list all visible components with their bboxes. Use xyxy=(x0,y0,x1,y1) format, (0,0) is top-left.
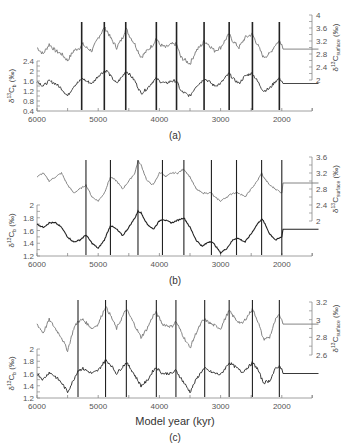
left-y-tick-label: 1.8 xyxy=(23,214,35,223)
x-tick-label: 3000 xyxy=(212,402,230,411)
left-y-tick-label: 1.4 xyxy=(23,239,35,248)
x-tick-label: 5000 xyxy=(89,402,107,411)
x-tick-label: 2000 xyxy=(273,402,291,411)
panel-b: 600050004000300020001.21.41.61.82δ13Cb (… xyxy=(6,153,341,286)
right-y-tick-label: 3.2 xyxy=(316,298,328,307)
x-tick-label: 6000 xyxy=(28,115,46,124)
right-y-tick-label: 3.2 xyxy=(316,37,328,46)
right-y-tick-label: 2.8 xyxy=(316,185,328,194)
panel-label: (c) xyxy=(169,432,181,443)
x-tick-label: 5000 xyxy=(89,260,107,269)
panel-label: (b) xyxy=(169,275,181,286)
x-tick-label: 6000 xyxy=(28,260,46,269)
x-tick-label: 2000 xyxy=(273,115,291,124)
right-y-tick-label: 2.4 xyxy=(316,201,328,210)
left-y-tick-label: 1.8 xyxy=(23,357,35,366)
right-y-tick-label: 3.6 xyxy=(316,153,328,162)
right-y-tick-label: 3.2 xyxy=(316,169,328,178)
left-y-axis-title: δ13Cb (‰) xyxy=(6,213,17,247)
left-y-tick-label: 2 xyxy=(30,201,35,210)
x-tick-label: 5000 xyxy=(89,115,107,124)
left-y-tick-label: 2.4 xyxy=(23,57,35,66)
right-y-axis-title: δ13Csurface (‰) xyxy=(330,23,341,71)
right-y-axis-title: δ13Csurface (‰) xyxy=(330,304,341,352)
right-y-tick-label: 2 xyxy=(316,217,321,226)
left-y-axis-title: δ13Cb (‰) xyxy=(6,69,17,103)
x-tick-label: 4000 xyxy=(151,402,169,411)
left-y-tick-label: 0.4 xyxy=(23,107,35,116)
left-y-tick-label: 1.6 xyxy=(23,77,35,86)
series-line-delta13cb xyxy=(37,211,319,254)
series-line-delta13c-surface xyxy=(37,307,319,352)
series-line-delta13cb xyxy=(37,70,319,97)
left-y-tick-label: 1.6 xyxy=(23,370,35,379)
panel-label: (a) xyxy=(169,130,181,141)
right-y-tick-label: 2.4 xyxy=(316,63,328,72)
series-line-delta13c-surface xyxy=(37,27,319,65)
x-tick-label: 4000 xyxy=(151,260,169,269)
right-y-tick-label: 2.6 xyxy=(316,351,328,360)
right-y-tick-label: 3 xyxy=(316,316,321,325)
x-tick-label: 6000 xyxy=(28,402,46,411)
right-y-tick-label: 2.8 xyxy=(316,333,328,342)
chart-figure: 600050004000300020000.40.81.21.622.4δ13C… xyxy=(0,0,347,446)
right-y-axis-title: δ13Csurface (‰) xyxy=(330,165,341,213)
x-axis-title: Model year (kyr) xyxy=(135,415,214,427)
series-line-delta13c-surface xyxy=(37,161,319,202)
series-line-delta13cb xyxy=(37,359,319,393)
x-tick-label: 3000 xyxy=(212,115,230,124)
right-y-tick-label: 2.8 xyxy=(316,50,328,59)
right-y-tick-label: 3.6 xyxy=(316,24,328,33)
left-y-axis-title: δ13Cb (‰) xyxy=(6,356,17,390)
left-y-tick-label: 1.2 xyxy=(23,252,35,261)
x-tick-label: 4000 xyxy=(151,115,169,124)
left-y-tick-label: 2 xyxy=(30,345,35,354)
left-y-tick-label: 1.4 xyxy=(23,382,35,391)
left-y-tick-label: 2 xyxy=(30,67,35,76)
right-y-tick-label: 4 xyxy=(316,11,321,20)
x-tick-label: 3000 xyxy=(212,260,230,269)
panel-c: 600050004000300020001.21.41.61.82δ13Cb (… xyxy=(6,298,341,443)
left-y-tick-label: 1.2 xyxy=(23,394,35,403)
left-y-tick-label: 0.8 xyxy=(23,97,35,106)
x-tick-label: 2000 xyxy=(273,260,291,269)
left-y-tick-label: 1.2 xyxy=(23,87,35,96)
panel-a: 600050004000300020000.40.81.21.622.4δ13C… xyxy=(6,11,341,141)
left-y-tick-label: 1.6 xyxy=(23,227,35,236)
